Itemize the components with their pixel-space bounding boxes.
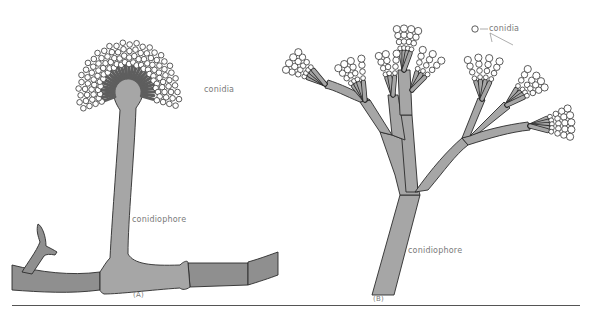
label-conidiophore-b: conidiophore [408,246,462,255]
side-branch [22,224,57,274]
label-conidiophore-a: conidiophore [132,215,186,224]
fungal-conidiophore-diagram [0,0,590,313]
conidiophore-a [100,78,190,294]
label-conidia-a: conidia [204,85,234,94]
label-conidia-b: conidia [489,24,519,33]
caption-b: (B) [373,295,384,303]
panel-b-penicillium [325,70,530,295]
conidiophore-b [372,195,420,295]
panel-a-aspergillus [12,40,278,294]
caption-a: (A) [133,291,144,299]
figure-divider-rule [12,305,580,306]
